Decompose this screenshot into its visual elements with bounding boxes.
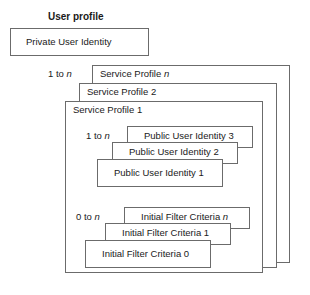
public-user-identity-3-label: Public User Identity 3	[144, 131, 234, 141]
public-user-identity-1-label: Public User Identity 1	[114, 168, 204, 178]
initial-filter-criteria-0-label-suffix: 0	[184, 248, 189, 259]
public-user-identity-cardinality: 1 to n	[86, 131, 110, 141]
service-profile-n-label-prefix: Service Profile	[100, 68, 164, 79]
initial-filter-criteria-n-label: Initial Filter Criteria n	[141, 212, 228, 222]
initial-filter-criteria-1-label-prefix: Initial Filter Criteria	[122, 227, 204, 238]
private-user-identity-label: Private User Identity	[26, 37, 112, 47]
initial-filter-criteria-cardinality-prefix: 0 to	[76, 211, 95, 222]
service-profile-2-label: Service Profile 2	[87, 87, 156, 97]
public-user-identity-cardinality-suffix: n	[105, 130, 110, 141]
service-profile-cardinality-suffix: n	[67, 68, 72, 79]
initial-filter-criteria-n-label-prefix: Initial Filter Criteria	[141, 211, 223, 222]
service-profile-cardinality: 1 to n	[48, 69, 72, 79]
initial-filter-criteria-0-label-prefix: Initial Filter Criteria	[102, 248, 184, 259]
public-user-identity-cardinality-prefix: 1 to	[86, 130, 105, 141]
diagram-canvas: User profile Private User Identity 1 to …	[0, 0, 310, 295]
initial-filter-criteria-n-label-suffix: n	[223, 211, 228, 222]
initial-filter-criteria-1-label: Initial Filter Criteria 1	[122, 228, 209, 238]
service-profile-n-label-suffix: n	[164, 68, 169, 79]
service-profile-1-label-suffix: 1	[137, 104, 142, 115]
service-profile-cardinality-prefix: 1 to	[48, 68, 67, 79]
service-profile-2-label-suffix: 2	[151, 86, 156, 97]
service-profile-2-label-prefix: Service Profile	[87, 86, 151, 97]
service-profile-n-label: Service Profile n	[100, 69, 169, 79]
service-profile-1-label: Service Profile 1	[73, 105, 142, 115]
service-profile-1-label-prefix: Service Profile	[73, 104, 137, 115]
initial-filter-criteria-1-label-suffix: 1	[204, 227, 209, 238]
initial-filter-criteria-cardinality-suffix: n	[95, 211, 100, 222]
initial-filter-criteria-0-label: Initial Filter Criteria 0	[102, 249, 189, 259]
public-user-identity-2-label: Public User Identity 2	[129, 147, 219, 157]
diagram-title: User profile	[48, 12, 104, 22]
initial-filter-criteria-cardinality: 0 to n	[76, 212, 100, 222]
